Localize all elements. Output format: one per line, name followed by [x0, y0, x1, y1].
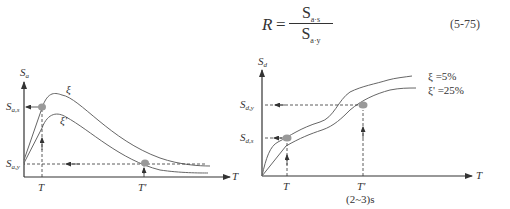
right-y-mark-upper: Sd,y — [240, 98, 255, 112]
diagram-canvas: Sa Sa,s Sa,y ξ ξ' T T' T Sd Sd,y Sd,s ξ … — [0, 0, 510, 209]
left-curve-xi-label: ξ — [66, 83, 71, 96]
right-tick-T-prime: T' — [357, 180, 366, 192]
right-point-Sdy — [359, 102, 368, 109]
right-tick-T: T — [283, 180, 290, 192]
right-chart: Sd Sd,y Sd,s ξ =5% ξ' =25% T T' (2~3)s T — [240, 55, 483, 206]
right-curve-xi-25 — [262, 88, 416, 176]
right-y-mark-lower: Sd,s — [240, 131, 254, 145]
left-y-mark-lower: Sa,y — [6, 157, 21, 171]
right-y-axis-label: Sd — [258, 55, 268, 69]
left-x-axis-label: T — [232, 170, 239, 182]
left-tick-T: T — [38, 181, 45, 193]
right-point-Sds — [283, 135, 292, 142]
right-curve-xi-5 — [262, 76, 412, 176]
left-curve-xi-prime — [24, 114, 208, 173]
left-tick-T-prime: T' — [138, 181, 147, 193]
right-x-axis-label: T — [476, 169, 483, 181]
left-chart: Sa Sa,s Sa,y ξ ξ' T T' T — [6, 66, 239, 193]
left-y-axis-label: Sa — [20, 66, 30, 80]
right-legend-xi-5: ξ =5% — [428, 70, 457, 83]
left-point-Say — [141, 160, 149, 167]
left-curve-xi-prime-label: ξ' — [60, 114, 68, 127]
right-tick-T-prime-note: (2~3)s — [346, 193, 375, 206]
left-curve-xi — [24, 93, 210, 166]
left-y-mark-upper: Sa,s — [6, 100, 20, 114]
right-legend-xi-25: ξ' =25% — [428, 84, 464, 97]
left-point-Sas — [38, 104, 46, 111]
